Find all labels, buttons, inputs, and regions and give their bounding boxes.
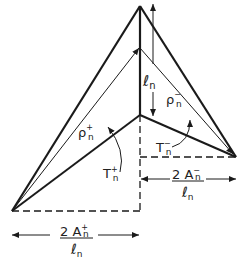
width-plus-denominator: ℓn (70, 241, 83, 259)
rho-minus-label: ρ−n (166, 90, 182, 109)
rwg-basis-function-diagram: ℓn ρ+n ρ−n T+n T−n 2 A+n ℓn 2 A−n ℓn (0, 0, 242, 264)
dashed-guides (12, 115, 236, 211)
width-minus-numerator: 2 A−n (172, 166, 201, 182)
triangle-t-plus (12, 6, 140, 211)
rho-plus-label: ρ+n (78, 123, 94, 142)
edge-length-label: ℓn (142, 72, 156, 91)
width-plus-numerator: 2 A+n (60, 223, 89, 239)
rho-minus-vector (140, 48, 233, 154)
t-plus-label: T+n (102, 165, 118, 183)
t-minus-label: T−n (155, 139, 171, 157)
width-minus-denominator: ℓn (181, 184, 194, 202)
